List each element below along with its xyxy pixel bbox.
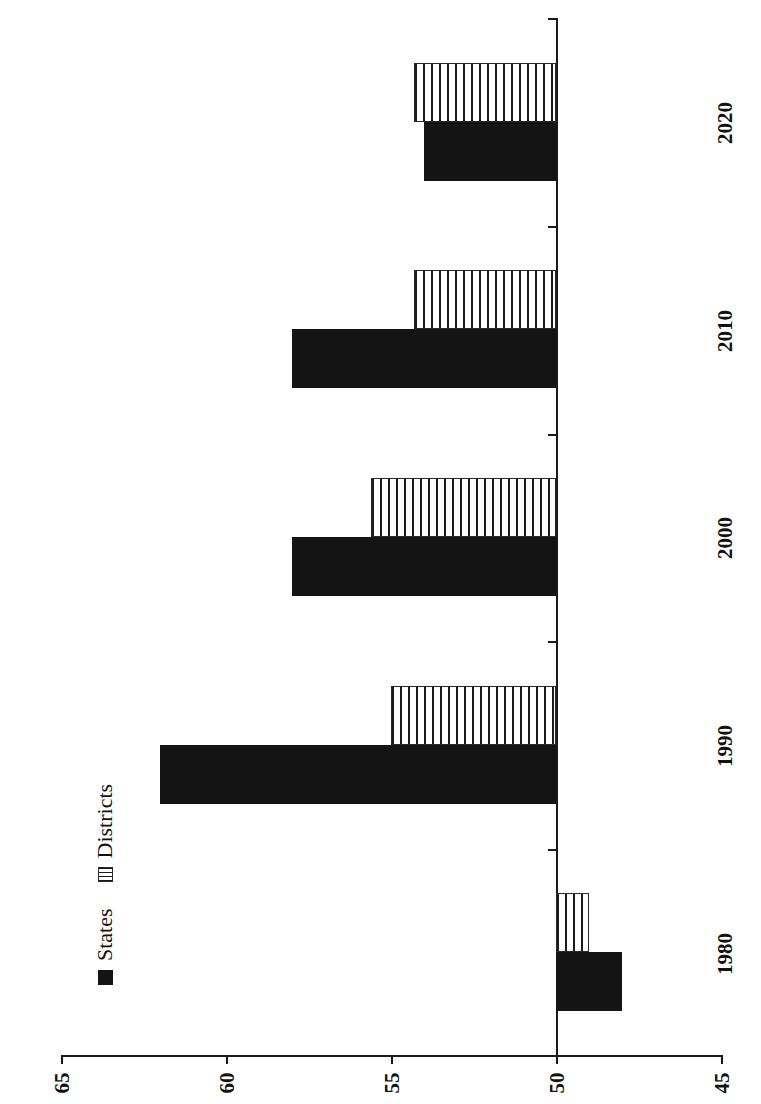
- category-axis-tick-1990: [548, 849, 557, 851]
- category-axis-tick-top: [548, 18, 557, 20]
- legend-swatch-states-icon: [98, 970, 113, 985]
- bar-chart: 65 60 55 50 45 2020 2010 2000 1990 1980 …: [0, 0, 761, 1104]
- bar-states-2010: [292, 329, 556, 388]
- legend-label-districts: Districts: [92, 784, 118, 859]
- bar-districts-1990: [391, 686, 556, 745]
- category-axis-tick-2020: [548, 226, 557, 228]
- bar-states-2000: [292, 537, 556, 596]
- category-axis-tick-2010: [548, 434, 557, 436]
- bar-states-2020: [424, 122, 556, 181]
- category-label-2020: 2020: [712, 88, 738, 158]
- bar-districts-2010: [414, 270, 556, 329]
- category-axis-tick-2000: [548, 641, 557, 643]
- value-axis-label-50: 50: [546, 1059, 568, 1104]
- bar-districts-1980: [556, 893, 589, 952]
- value-axis-label-65: 65: [51, 1059, 73, 1104]
- category-label-1980: 1980: [712, 919, 738, 989]
- category-label-2010: 2010: [712, 296, 738, 366]
- bar-states-1980: [556, 952, 622, 1011]
- bar-states-1990: [160, 745, 556, 804]
- chart-legend: States Districts: [92, 784, 118, 985]
- bar-districts-2000: [371, 478, 556, 537]
- legend-entry-states: States: [92, 908, 118, 985]
- value-axis-label-60: 60: [216, 1059, 238, 1104]
- bar-districts-2020: [414, 63, 556, 122]
- category-label-2000: 2000: [712, 503, 738, 573]
- legend-entry-districts: Districts: [92, 784, 118, 883]
- value-axis-label-45: 45: [711, 1059, 733, 1104]
- legend-label-states: States: [92, 908, 118, 961]
- legend-swatch-districts-icon: [98, 867, 113, 882]
- category-label-1990: 1990: [712, 711, 738, 781]
- value-axis-label-55: 55: [381, 1059, 403, 1104]
